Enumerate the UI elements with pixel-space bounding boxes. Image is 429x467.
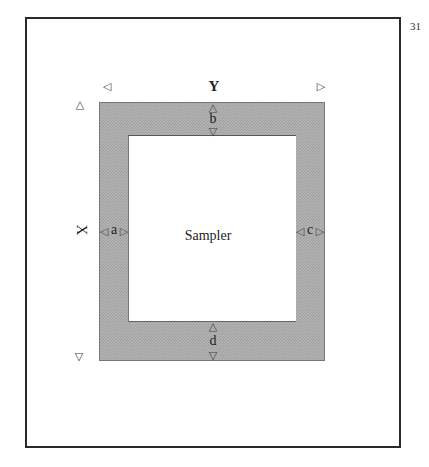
- c-left-arrow-icon: ◁: [296, 226, 304, 237]
- a-left-arrow-icon: ◁: [100, 226, 108, 237]
- y-left-arrow-icon: ◁: [103, 81, 111, 92]
- y-right-arrow-icon: ▷: [317, 81, 325, 92]
- x-bottom-arrow-icon: ▽: [75, 351, 83, 362]
- d-up-arrow-icon: △: [209, 321, 217, 332]
- margin-d-label: d: [210, 334, 217, 348]
- margin-a-label: a: [111, 223, 117, 237]
- c-right-arrow-icon: ▷: [316, 226, 324, 237]
- page-number: 31: [410, 20, 421, 32]
- a-right-arrow-icon: ▷: [120, 226, 128, 237]
- margin-c-label: c: [307, 223, 313, 237]
- x-top-arrow-icon: △: [76, 99, 84, 110]
- sampler-label: Sampler: [185, 229, 232, 243]
- b-down-arrow-icon: ▽: [209, 126, 217, 137]
- x-axis-label: X: [75, 225, 89, 236]
- d-down-arrow-icon: ▽: [209, 350, 217, 361]
- y-axis-label: Y: [209, 79, 220, 93]
